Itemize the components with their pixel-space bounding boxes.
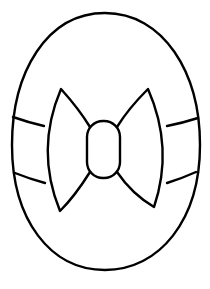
egg-illustration bbox=[0, 0, 210, 289]
coloring-page: Easter egg with bow coloring page Egg ou… bbox=[0, 0, 210, 289]
bow-knot bbox=[87, 121, 120, 178]
